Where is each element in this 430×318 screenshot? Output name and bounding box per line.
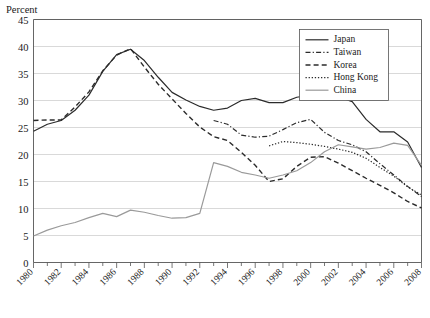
- legend-label-china: China: [334, 85, 357, 95]
- x-axis-tick-labels: 1980198219841986198819901992199419961998…: [14, 263, 423, 288]
- x-tick-label-2000: 2000: [292, 267, 313, 288]
- line-chart: 051015202530354045 198019821984198619881…: [0, 0, 430, 318]
- y-tick-label-35: 35: [18, 69, 29, 80]
- legend-label-taiwan: Taiwan: [334, 47, 362, 57]
- legend: JapanTaiwanKoreaHong KongChina: [300, 30, 389, 101]
- x-tick-label-2008: 2008: [402, 267, 423, 288]
- y-tick-label-20: 20: [18, 150, 29, 161]
- y-tick-label-30: 30: [18, 96, 29, 107]
- x-tick-label-2004: 2004: [347, 267, 368, 288]
- x-tick-label-2006: 2006: [375, 267, 396, 288]
- y-tick-label-5: 5: [23, 231, 28, 242]
- y-axis-tick-labels: 051015202530354045: [18, 15, 29, 269]
- legend-label-korea: Korea: [334, 60, 358, 70]
- x-tick-label-1982: 1982: [42, 267, 63, 288]
- y-tick-label-10: 10: [18, 204, 29, 215]
- x-tick-label-1996: 1996: [236, 267, 257, 288]
- x-tick-label-1998: 1998: [264, 267, 285, 288]
- y-tick-label-15: 15: [18, 177, 29, 188]
- y-tick-label-40: 40: [18, 42, 29, 53]
- legend-label-japan: Japan: [334, 34, 356, 44]
- y-tick-label-25: 25: [18, 123, 29, 134]
- x-tick-label-1994: 1994: [208, 267, 229, 288]
- x-tick-label-1986: 1986: [98, 267, 119, 288]
- chart-container: 051015202530354045 198019821984198619881…: [0, 0, 430, 318]
- x-tick-label-1992: 1992: [181, 267, 202, 288]
- x-tick-label-1984: 1984: [70, 267, 91, 288]
- legend-label-hong-kong: Hong Kong: [334, 72, 379, 82]
- x-tick-label-1990: 1990: [153, 267, 174, 288]
- x-tick-label-1980: 1980: [14, 267, 35, 288]
- series-line-hong-kong: [269, 142, 421, 195]
- y-axis-title: Percent: [6, 4, 38, 15]
- y-tick-label-45: 45: [18, 15, 29, 26]
- series-line-taiwan: [214, 119, 422, 196]
- x-tick-label-2002: 2002: [319, 267, 340, 288]
- x-tick-label-1988: 1988: [125, 267, 146, 288]
